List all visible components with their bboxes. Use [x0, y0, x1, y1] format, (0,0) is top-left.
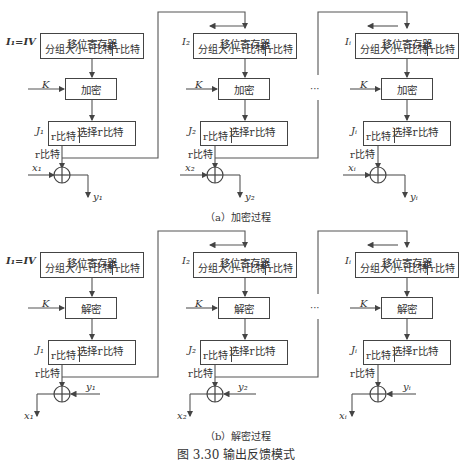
select-sub: r比特: [203, 347, 232, 362]
encrypt-box: 加密: [381, 78, 433, 100]
register-right: r比特: [265, 260, 293, 275]
out-bits-label: r比特: [188, 150, 213, 160]
select-sub: r比特: [51, 347, 80, 362]
shift-register-box: 移位寄存器 分组大小-r比特 r比特: [355, 33, 459, 59]
shift-register-box: 移位寄存器 分组大小-r比特 r比特: [40, 252, 144, 278]
iv-label: I₂: [182, 37, 190, 47]
input-label: y₂: [238, 382, 248, 392]
iv-label: Iᵢ: [345, 37, 351, 47]
shift-register-box: 移位寄存器 分组大小-r比特 r比特: [193, 252, 297, 278]
decrypt-box: 解密: [218, 297, 270, 319]
select-box: 选择r比特 r比特: [200, 121, 288, 146]
input-label: y₁: [86, 382, 96, 392]
output-label: x₂: [177, 411, 187, 421]
register-right: r比特: [112, 260, 140, 275]
connector-lines: [0, 0, 472, 464]
select-label: J₂: [188, 126, 196, 136]
select-sub: r比特: [366, 347, 395, 362]
encrypt-box: 加密: [65, 78, 117, 100]
key-label: K: [195, 80, 202, 90]
output-label: xᵢ: [339, 411, 347, 421]
output-label: x₁: [24, 411, 34, 421]
out-bits-label: r比特: [350, 150, 375, 160]
ellipsis: ···: [310, 84, 320, 94]
key-label: K: [42, 80, 49, 90]
key-label: K: [360, 299, 367, 309]
input-label: xᵢ: [348, 163, 356, 173]
output-label: y₂: [245, 192, 255, 202]
key-label: K: [42, 299, 49, 309]
key-label: K: [360, 80, 367, 90]
input-label: x₁: [32, 163, 42, 173]
select-box: 选择r比特 r比特: [363, 340, 451, 365]
select-box: 选择r比特 r比特: [48, 340, 136, 365]
shift-register-box: 移位寄存器 分组大小-r比特 r比特: [40, 33, 144, 59]
select-label: Jᵢ: [351, 126, 357, 136]
key-label: K: [195, 299, 202, 309]
decrypt-label: 解密: [219, 301, 269, 316]
iv-label: I₂: [182, 256, 190, 266]
output-label: yᵢ: [410, 192, 418, 202]
register-right: r比特: [265, 41, 293, 56]
out-bits-label: r比特: [35, 369, 60, 379]
decrypt-label: 解密: [382, 301, 432, 316]
out-bits-label: r比特: [188, 369, 213, 379]
input-label: yᵢ: [403, 382, 411, 392]
iv-label: I₁=IV: [6, 37, 36, 47]
encryption-caption: （a）加密过程: [205, 209, 271, 224]
register-right: r比特: [427, 41, 455, 56]
iv-label: Iᵢ: [345, 256, 351, 266]
encrypt-label: 加密: [66, 82, 116, 97]
shift-register-box: 移位寄存器 分组大小-r比特 r比特: [193, 33, 297, 59]
encrypt-label: 加密: [382, 82, 432, 97]
decrypt-label: 解密: [66, 301, 116, 316]
encrypt-label: 加密: [219, 82, 269, 97]
decrypt-box: 解密: [381, 297, 433, 319]
select-label: Jᵢ: [351, 345, 357, 355]
select-sub: r比特: [366, 128, 395, 143]
ellipsis: ···: [310, 303, 320, 313]
select-sub: r比特: [51, 128, 80, 143]
register-right: r比特: [112, 41, 140, 56]
xor-symbols: [54, 167, 386, 402]
select-box: 选择r比特 r比特: [200, 340, 288, 365]
select-box: 选择r比特 r比特: [48, 121, 136, 146]
encrypt-box: 加密: [218, 78, 270, 100]
select-box: 选择r比特 r比特: [363, 121, 451, 146]
out-bits-label: r比特: [35, 150, 60, 160]
shift-register-box: 移位寄存器 分组大小-r比特 r比特: [355, 252, 459, 278]
figure-caption: 图 3.30 输出反馈模式: [0, 445, 472, 462]
decrypt-box: 解密: [65, 297, 117, 319]
select-label: J₂: [188, 345, 196, 355]
select-sub: r比特: [203, 128, 232, 143]
input-label: x₂: [185, 163, 195, 173]
select-label: J₁: [36, 126, 44, 136]
output-label: y₁: [93, 192, 103, 202]
select-label: J₁: [36, 345, 44, 355]
out-bits-label: r比特: [350, 369, 375, 379]
iv-label: I₁=IV: [6, 256, 36, 266]
decryption-caption: （b）解密过程: [205, 428, 271, 443]
register-right: r比特: [427, 260, 455, 275]
